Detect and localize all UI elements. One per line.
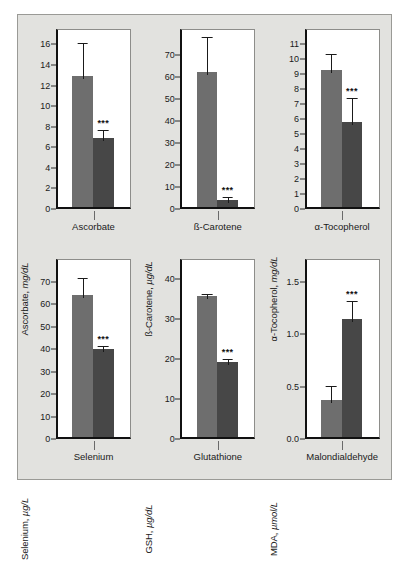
y-tick-label: 70 xyxy=(40,277,50,287)
y-tick-label: 30 xyxy=(165,314,175,324)
y-tick-label: 6 xyxy=(45,142,50,152)
category-tick xyxy=(218,441,219,450)
error-bar xyxy=(83,43,84,79)
error-bar-cap xyxy=(98,130,109,131)
error-bar xyxy=(331,54,332,73)
figure-panel: Ascorbate, mg/dL0246810121416***Ascorbat… xyxy=(17,14,392,480)
bar-group-2 xyxy=(342,319,363,437)
category-label: Ascorbate xyxy=(72,221,115,232)
y-axis-title-text: Selenium, xyxy=(19,516,30,560)
y-tick-label: 0 xyxy=(45,204,50,214)
y-tick-label: 1 xyxy=(294,189,299,199)
chart-panel-selenium: Selenium, µg/L010203040506070***Selenium xyxy=(18,247,142,479)
chart-panel-ascorbate: Ascorbate, mg/dL0246810121416***Ascorbat… xyxy=(18,15,142,247)
y-tick-label: 1.0 xyxy=(286,329,299,339)
error-bar-cap xyxy=(222,359,233,360)
category-tick xyxy=(94,211,95,220)
bar-group-1 xyxy=(72,76,93,207)
error-bar-cap xyxy=(77,278,88,279)
y-tick-label: 3 xyxy=(294,159,299,169)
error-bar xyxy=(331,386,332,404)
y-tick-label: 50 xyxy=(40,322,50,332)
category-tick xyxy=(342,211,343,220)
y-axis-unit: µg/dL xyxy=(143,505,154,528)
y-axis-unit: µmol/L xyxy=(268,502,279,530)
y-axis-unit: µg/L xyxy=(19,498,30,516)
category-label: Selenium xyxy=(74,451,114,462)
y-tick-label: 9 xyxy=(294,69,299,79)
y-tick-label: 2 xyxy=(294,174,299,184)
error-bar-cap xyxy=(326,386,337,387)
error-bar-cap xyxy=(347,98,358,99)
plot-area: *** xyxy=(180,259,255,439)
y-tick-label: 0 xyxy=(45,434,50,444)
significance-marker: *** xyxy=(97,335,109,344)
category-tick xyxy=(218,211,219,220)
significance-marker: *** xyxy=(97,119,109,128)
y-tick-label: 40 xyxy=(165,274,175,284)
y-tick-label: 11 xyxy=(290,39,299,49)
y-axis-title: GSH, µg/dL xyxy=(143,439,157,564)
y-tick-label: 4 xyxy=(294,144,299,154)
error-bar xyxy=(103,346,104,353)
y-tick-label: 4 xyxy=(45,163,50,173)
error-bar xyxy=(352,98,353,125)
bar-group-1 xyxy=(197,72,218,207)
plot-area: *** xyxy=(305,29,380,209)
significance-marker: *** xyxy=(346,87,358,96)
y-tick-label: 20 xyxy=(40,389,50,399)
plot-area: *** xyxy=(180,29,255,209)
error-bar-cap xyxy=(347,301,358,302)
y-tick-label: 0 xyxy=(170,204,175,214)
category-tick xyxy=(94,441,95,450)
significance-marker: *** xyxy=(222,348,234,357)
category-tick xyxy=(342,441,343,450)
chart-panel-malondialdehyde: MDA, µmol/L0.00.51.01.5***Malondialdehyd… xyxy=(267,247,391,479)
category-label: α-Tocopherol xyxy=(315,221,370,232)
y-tick-label: 8 xyxy=(294,84,299,94)
y-tick-label: 40 xyxy=(165,116,175,126)
y-tick-label: 7 xyxy=(294,99,299,109)
bar-group-1 xyxy=(72,295,93,437)
y-axis-title-text: MDA, xyxy=(268,530,279,556)
category-label: Glutathione xyxy=(194,451,243,462)
bar-group-2 xyxy=(217,362,238,437)
error-bar-cap xyxy=(77,43,88,44)
error-bar xyxy=(207,37,208,75)
y-tick-label: 5 xyxy=(294,129,299,139)
y-tick-label: 40 xyxy=(40,344,50,354)
error-bar-cap xyxy=(326,54,337,55)
y-tick-label: 60 xyxy=(40,299,50,309)
y-tick-label: 14 xyxy=(40,60,50,70)
error-bar-cap xyxy=(202,37,213,38)
y-axis-title: MDA, µmol/L xyxy=(268,439,282,564)
y-tick-label: 0 xyxy=(294,204,299,214)
y-tick-label: 10 xyxy=(40,101,50,111)
y-tick-label: 10 xyxy=(165,182,175,192)
bar-group-2 xyxy=(93,349,114,437)
y-tick-label: 50 xyxy=(165,94,175,104)
category-label: Malondialdehyde xyxy=(306,451,378,462)
y-tick-label: 6 xyxy=(294,114,299,124)
y-tick-label: 8 xyxy=(45,122,50,132)
bar-group-1 xyxy=(321,400,342,437)
bar-group-2 xyxy=(93,138,114,207)
bar-group-1 xyxy=(321,70,342,207)
error-bar-cap xyxy=(202,294,213,295)
error-bar xyxy=(352,301,353,322)
significance-marker: *** xyxy=(346,290,358,299)
panel-grid: Ascorbate, mg/dL0246810121416***Ascorbat… xyxy=(18,15,391,479)
error-bar xyxy=(83,278,84,298)
error-bar-cap xyxy=(222,197,233,198)
y-tick-label: 0 xyxy=(170,434,175,444)
significance-marker: *** xyxy=(222,186,234,195)
y-tick-label: 10 xyxy=(165,394,175,404)
y-tick-label: 10 xyxy=(40,412,50,422)
y-tick-label: 20 xyxy=(165,354,175,364)
y-axis-title-text: GSH, xyxy=(143,528,154,553)
y-tick-label: 0.5 xyxy=(286,382,299,392)
error-bar-cap xyxy=(98,346,109,347)
y-tick-label: 60 xyxy=(165,72,175,82)
category-label: ß-Carotene xyxy=(194,221,242,232)
bar-group-2 xyxy=(342,122,363,208)
